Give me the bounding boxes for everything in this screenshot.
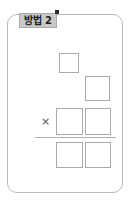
answer-box-bottom-left[interactable]: [56, 142, 83, 168]
answer-box-top[interactable]: [59, 53, 79, 73]
answer-box-bottom-right[interactable]: [85, 142, 111, 168]
sum-divider-line: [35, 137, 116, 138]
tag-corner-marker-icon: [55, 10, 59, 14]
worksheet-screenshot: × 방법 2: [0, 0, 130, 202]
answer-box-mid-left[interactable]: [56, 108, 83, 135]
multiplication-sign-icon: ×: [39, 114, 52, 128]
answer-box-upper-right[interactable]: [85, 76, 110, 101]
method-tag: 방법 2: [19, 13, 57, 28]
answer-box-mid-right[interactable]: [85, 108, 111, 135]
method-card: ×: [7, 14, 123, 193]
method-tag-label: 방법 2: [24, 16, 52, 26]
